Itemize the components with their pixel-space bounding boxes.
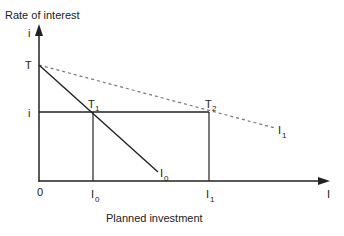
label-T2-sub: 2 xyxy=(212,104,217,113)
origin-label: 0 xyxy=(37,186,43,198)
label-i: i xyxy=(28,107,30,119)
y-axis-arrow-icon xyxy=(35,24,43,36)
tick-I0-sub: 0 xyxy=(95,195,100,204)
label-I1-curve-sub: 1 xyxy=(282,131,287,140)
label-T1: T xyxy=(88,98,95,110)
label-T: T xyxy=(25,59,32,71)
label-I0-curve-sub: 0 xyxy=(164,174,169,183)
y-axis-symbol: i xyxy=(28,27,30,39)
label-T1-sub: 1 xyxy=(95,104,100,113)
tick-I1-sub: 1 xyxy=(210,195,215,204)
label-I0-curve: I xyxy=(160,167,163,179)
y-axis-title: Rate of interest xyxy=(5,9,80,21)
x-axis-title: Planned investment xyxy=(106,212,203,224)
x-axis-arrow-icon xyxy=(318,177,330,185)
label-I1-curve: I xyxy=(278,124,281,136)
label-T2: T xyxy=(205,98,212,110)
x-axis-symbol: I xyxy=(327,188,330,200)
tick-I0: I xyxy=(91,188,94,200)
investment-diagram: Rate of interest i T i T 1 T 2 I 1 I 0 0… xyxy=(0,0,344,236)
tick-I1: I xyxy=(206,188,209,200)
